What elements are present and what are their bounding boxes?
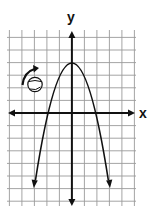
x-axis-label: x bbox=[139, 105, 147, 121]
y-axis bbox=[68, 31, 75, 206]
baseball-icon bbox=[28, 77, 42, 91]
y-axis-up-arrow-icon bbox=[68, 31, 75, 38]
parabola-graph: y x bbox=[0, 0, 158, 214]
y-axis-label: y bbox=[67, 9, 75, 25]
y-axis-down-arrow-icon bbox=[68, 199, 75, 206]
